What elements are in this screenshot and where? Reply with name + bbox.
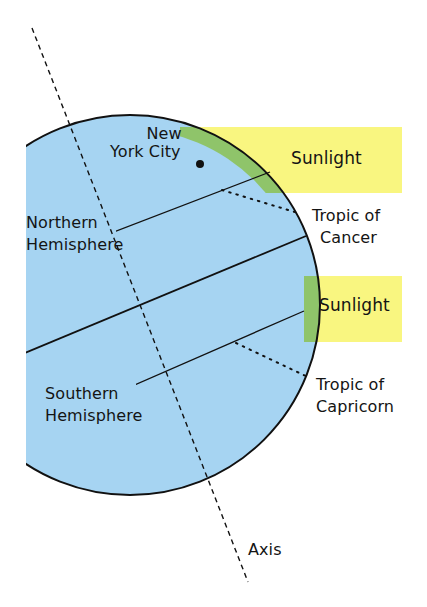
axis-label: Axis bbox=[248, 540, 282, 560]
northern-hemisphere-label: Northern Hemisphere bbox=[26, 212, 123, 256]
capricorn-label-line2: Capricorn bbox=[316, 396, 394, 418]
tropic-of-cancer-label: Tropic of Cancer bbox=[312, 205, 380, 249]
city-label-line1: New bbox=[129, 124, 199, 144]
cancer-label-line2: Cancer bbox=[312, 227, 380, 249]
cancer-label-line1: Tropic of bbox=[312, 205, 380, 227]
sunlight-label-middle: Sunlight bbox=[319, 295, 390, 315]
northern-label-line1: Northern bbox=[26, 212, 123, 234]
tropic-of-capricorn-label: Tropic of Capricorn bbox=[316, 374, 394, 418]
new-york-city-label: New bbox=[129, 124, 199, 144]
capricorn-label-line1: Tropic of bbox=[316, 374, 394, 396]
southern-label-line2: Hemisphere bbox=[45, 405, 142, 427]
new-york-city-marker bbox=[196, 160, 204, 168]
southern-label-line1: Southern bbox=[45, 383, 142, 405]
new-york-city-label-line2: York City bbox=[110, 142, 181, 162]
southern-hemisphere-label: Southern Hemisphere bbox=[45, 383, 142, 427]
northern-label-line2: Hemisphere bbox=[26, 234, 123, 256]
sunlight-label-top: Sunlight bbox=[291, 148, 362, 168]
